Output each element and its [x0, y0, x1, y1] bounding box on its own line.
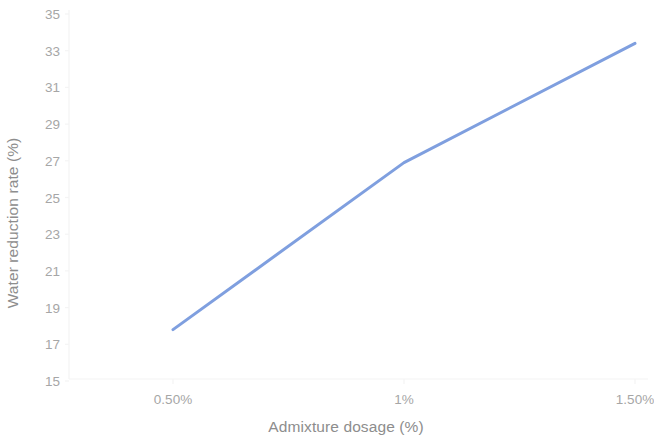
- data-series-line: [173, 43, 635, 329]
- plot-area: [0, 0, 654, 445]
- line-chart: Water reduction rate (%) 353331292725232…: [0, 0, 654, 445]
- x-axis-title-label: Admixture dosage (%): [268, 418, 423, 436]
- x-axis-tick-label: 0.50%: [154, 392, 192, 407]
- x-axis-tick-label: 1.50%: [616, 392, 654, 407]
- x-axis-title: Admixture dosage (%): [0, 418, 654, 436]
- x-axis-tick-marks: [173, 379, 635, 384]
- x-axis-tick-label: 1%: [394, 392, 414, 407]
- plot-svg: [0, 0, 654, 445]
